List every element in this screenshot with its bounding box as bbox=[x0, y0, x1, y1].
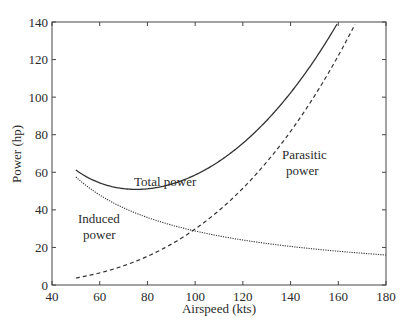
parasitic-power-label-line1: Parasitic bbox=[282, 147, 327, 162]
axis-tick-labels: 406080100120140160180020406080100120140 bbox=[29, 15, 396, 305]
plot-frame bbox=[52, 22, 386, 285]
x-axis-label: Airspeed (kts) bbox=[182, 301, 256, 316]
x-tick-label: 60 bbox=[93, 289, 106, 304]
y-tick-label: 20 bbox=[35, 240, 48, 255]
y-tick-label: 120 bbox=[29, 52, 49, 67]
parasitic-power-label-line2: power bbox=[286, 163, 319, 178]
total-power-label: Total power bbox=[134, 174, 197, 189]
y-tick-label: 100 bbox=[29, 90, 49, 105]
y-tick-label: 40 bbox=[35, 202, 48, 217]
x-tick-label: 180 bbox=[376, 289, 396, 304]
x-tick-label: 140 bbox=[281, 289, 301, 304]
power-vs-airspeed-chart: 406080100120140160180020406080100120140 … bbox=[0, 0, 412, 329]
curves bbox=[76, 24, 386, 278]
y-tick-label: 0 bbox=[42, 278, 49, 293]
x-tick-label: 160 bbox=[329, 289, 349, 304]
y-tick-label: 60 bbox=[35, 165, 48, 180]
axis-ticks bbox=[52, 22, 386, 285]
induced-power-label-line1: Induced bbox=[78, 211, 120, 226]
induced-power-label-line2: power bbox=[83, 227, 116, 242]
y-axis-label: Power (hp) bbox=[9, 125, 24, 183]
x-tick-label: 80 bbox=[141, 289, 154, 304]
y-tick-label: 140 bbox=[29, 15, 49, 30]
y-tick-label: 80 bbox=[35, 127, 48, 142]
